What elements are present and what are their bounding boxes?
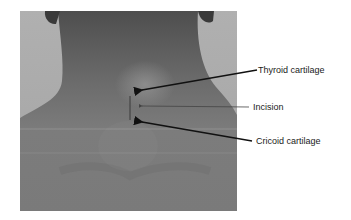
- annotation-layer: [0, 0, 351, 220]
- incision-arrow-icon: [142, 106, 249, 107]
- cricoid-arrow-icon: [142, 122, 252, 141]
- label-cricoid-cartilage: Cricoid cartilage: [256, 136, 321, 146]
- label-incision: Incision: [253, 102, 284, 112]
- thyroid-arrow-icon: [142, 70, 257, 90]
- label-thyroid-cartilage: Thyroid cartilage: [258, 65, 325, 75]
